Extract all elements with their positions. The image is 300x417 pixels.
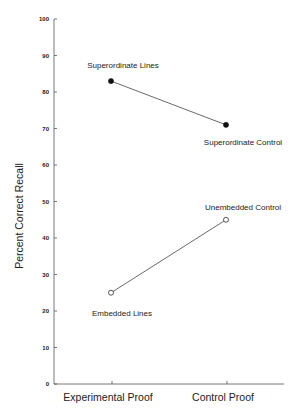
point-annotation: Embedded Lines [92,309,152,318]
y-tick-label: 70 [42,126,49,132]
point-annotation: Superordinate Lines [87,61,159,70]
point-annotation: Unembedded Control [205,203,281,212]
series-line [111,220,226,293]
y-tick-label: 80 [42,89,49,95]
y-tick-label: 0 [46,381,50,387]
series-line [111,81,226,125]
open-circle-marker [109,290,114,295]
y-tick-label: 100 [39,16,50,22]
open-circle-marker [224,217,229,222]
y-tick-label: 40 [42,235,49,241]
y-tick-label: 10 [42,345,49,351]
y-tick-label: 90 [42,53,49,59]
series-layer [108,78,228,295]
series-0 [108,78,228,127]
line-chart: 0102030405060708090100 Experimental Proo… [0,0,300,417]
y-tick-label: 60 [42,162,49,168]
y-axis: 0102030405060708090100 [39,16,57,387]
x-axis: Experimental ProofControl Proof [54,381,284,403]
x-category-label: Control Proof [192,391,254,403]
filled-circle-marker [223,122,228,127]
y-tick-label: 50 [42,199,49,205]
point-annotation: Superordinate Control [204,138,282,147]
x-category-label: Experimental Proof [63,391,152,403]
y-tick-label: 30 [42,272,49,278]
y-axis-title: Percent Correct Recall [13,163,25,269]
filled-circle-marker [108,78,113,83]
y-tick-label: 20 [42,308,49,314]
series-1 [109,217,229,295]
annotations-layer: Superordinate LinesSuperordinate Control… [87,61,282,318]
